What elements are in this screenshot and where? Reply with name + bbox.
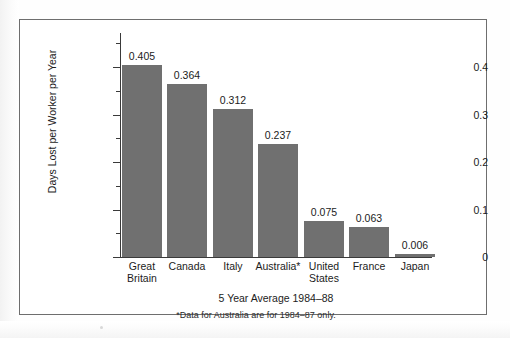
category-label-text: Australia* [256,260,301,272]
category-label-japan: Japan [390,261,440,273]
category-label-france: France [344,261,394,273]
bar-great-britain [122,65,162,257]
y-tick-label-2: 0.2 [422,157,488,167]
y-tick-major-0 [113,257,121,258]
category-label-united-states: United States [301,261,347,284]
category-label-great-britain: Great Britain [122,261,162,284]
scan-shadow-bottom [0,321,510,338]
category-label-text: Canada [169,260,206,272]
category-label-canada: Canada [162,261,212,273]
category-label-text: Italy [223,260,242,272]
y-tick-major-1 [113,210,121,211]
y-tick-minor-3 [116,91,121,92]
bar-value-great-britain: 0.405 [112,51,172,62]
y-tick-label-3: 0.3 [422,110,488,120]
category-label-text: United States [309,260,339,284]
y-tick-major-3 [113,115,121,116]
bar-france [349,227,389,257]
bar-value-canada: 0.364 [157,70,217,81]
x-axis-title: 5 Year Average 1984–88 [120,292,432,304]
bar-united-states [304,221,344,257]
bar-canada [167,84,207,257]
scan-shadow-left [0,0,19,338]
bar-japan [395,254,435,257]
y-tick-minor-0 [116,233,121,234]
y-tick-major-4 [113,67,121,68]
x-axis-line [120,257,432,258]
category-label-text: France [353,260,386,272]
y-axis-title: Days Lost per Worker per Year [47,42,58,202]
scan-speck [100,326,103,329]
bar-chart-plot-area: Days Lost per Worker per Year 0 0.1 0.2 … [20,20,488,316]
y-tick-label-4: 0.4 [422,62,488,72]
y-tick-minor-2 [116,138,121,139]
bar-italy [213,109,253,257]
category-label-text: Japan [401,260,430,272]
bar-value-france: 0.063 [339,213,399,224]
y-tick-minor-4 [116,43,121,44]
bar-australia [258,144,298,257]
y-tick-major-2 [113,162,121,163]
y-tick-minor-1 [116,186,121,187]
category-label-australia: Australia* [248,261,308,273]
bar-value-australia: 0.237 [248,130,308,141]
scanned-page: Days Lost per Worker per Year 0 0.1 0.2 … [0,0,510,338]
bar-value-italy: 0.312 [203,95,263,106]
category-label-text: Great Britain [127,260,157,284]
y-tick-label-1: 0.1 [422,205,488,215]
figure-footnote: *Data for Australia are for 1984–87 only… [86,310,426,320]
figure-frame: Days Lost per Worker per Year 0 0.1 0.2 … [19,19,487,315]
bar-value-japan: 0.006 [385,240,445,251]
